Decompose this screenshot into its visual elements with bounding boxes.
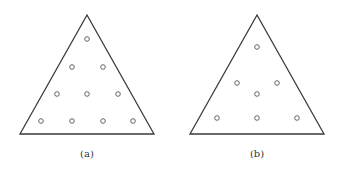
node-point xyxy=(116,92,121,97)
panel-a: (a) xyxy=(20,15,154,159)
caption-b: (b) xyxy=(250,148,264,159)
figure-canvas: (a) (b) xyxy=(0,0,341,173)
points-a xyxy=(39,37,136,124)
node-point xyxy=(85,92,90,97)
points-b xyxy=(215,45,300,121)
node-point xyxy=(255,116,260,121)
node-point xyxy=(101,65,106,70)
triangle-a xyxy=(20,15,154,134)
panel-b: (b) xyxy=(190,15,324,159)
node-point xyxy=(215,116,220,121)
node-point xyxy=(55,92,60,97)
node-point xyxy=(70,65,75,70)
node-point xyxy=(295,116,300,121)
caption-a: (a) xyxy=(80,148,94,159)
node-point xyxy=(235,81,240,86)
node-point xyxy=(255,92,260,97)
node-point xyxy=(255,45,260,50)
node-point xyxy=(101,119,106,124)
node-point xyxy=(275,81,280,86)
node-point xyxy=(85,37,90,42)
node-point xyxy=(70,119,75,124)
node-point xyxy=(131,119,136,124)
node-point xyxy=(39,119,44,124)
